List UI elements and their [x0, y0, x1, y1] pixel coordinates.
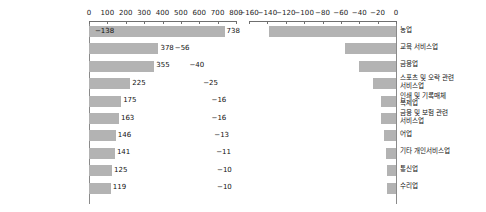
bar: [89, 130, 116, 141]
axis-tick-label: 100: [101, 9, 115, 17]
axis-tick-mark: [286, 21, 287, 24]
bar-value-label: −13: [214, 131, 229, 139]
axis-tick-label: 400: [156, 9, 170, 17]
category-label: 농업: [400, 27, 484, 35]
axis-tick-label: −40: [352, 9, 367, 17]
axis-tick-mark: [163, 21, 164, 24]
chart-panel-left: 0100200300400500600700800 738사회복지 서비스업37…: [0, 0, 243, 212]
category-label: 기타 개인서비스업: [400, 148, 484, 156]
bar: [387, 183, 396, 194]
axis-tick-mark: [341, 21, 342, 24]
axis-tick-mark: [249, 21, 250, 24]
bar-value-label: 225: [132, 79, 145, 87]
bar: [89, 61, 154, 72]
axis-tick-label: −60: [333, 9, 348, 17]
bar-value-label: 146: [118, 131, 131, 139]
category-label: 수리업: [400, 183, 484, 191]
bar: [381, 113, 396, 124]
bar-value-label: −16: [212, 96, 227, 104]
bar-value-label: −138: [95, 27, 114, 35]
axis-tick-label: −100: [294, 9, 314, 17]
axis-tick-mark: [218, 21, 219, 24]
bar-value-label: 175: [123, 96, 136, 104]
bar-value-label: −25: [203, 79, 218, 87]
category-label: 인쇄 및 기록매체 복제업: [400, 93, 484, 108]
bar-value-label: −10: [217, 183, 232, 191]
axis-tick-mark: [304, 21, 305, 24]
axis-tick-mark: [236, 21, 237, 24]
bar: [384, 130, 396, 141]
bar: [89, 78, 130, 89]
axis-tick-label: 600: [192, 9, 206, 17]
bar: [381, 96, 396, 107]
bar: [387, 165, 396, 176]
axis-tick-label: −120: [276, 9, 296, 17]
bar: [269, 26, 396, 37]
bar: [89, 113, 119, 124]
category-label: 어업: [400, 131, 484, 139]
category-label: 교육 서비스업: [400, 44, 484, 52]
bar-value-label: −16: [212, 114, 227, 122]
bar-value-label: 119: [113, 183, 126, 191]
axis-tick-mark: [378, 21, 379, 24]
category-label: 금융 및 보험 관련 서비스업: [400, 110, 484, 125]
bar: [89, 183, 111, 194]
bar: [386, 148, 396, 159]
axis-tick-mark: [323, 21, 324, 24]
bar-value-label: 355: [156, 61, 169, 69]
bar: [345, 43, 396, 54]
bar-value-label: −11: [216, 148, 231, 156]
bar: [89, 165, 112, 176]
bar-value-label: 378: [160, 44, 173, 52]
bar: [373, 78, 396, 89]
axis-tick-mark: [267, 21, 268, 24]
bar-value-label: 141: [117, 148, 130, 156]
category-label: 스포츠 및 오락 관련 서비스업: [400, 75, 484, 90]
bar: [89, 43, 158, 54]
bar-value-label: 738: [227, 27, 240, 35]
axis-tick-label: −80: [315, 9, 330, 17]
axis-tick-mark: [89, 21, 90, 24]
category-label: 통신업: [400, 166, 484, 174]
bar-value-label: −56: [175, 44, 190, 52]
chart-panel-right: −160−140−120−100−80−60−40−200 −138농업−56교…: [243, 0, 486, 212]
axis-tick-mark: [396, 21, 397, 24]
baseline: [396, 22, 397, 204]
bar-value-label: −10: [217, 166, 232, 174]
axis-tick-mark: [126, 21, 127, 24]
axis-tick-label: 200: [119, 9, 133, 17]
bar: [89, 96, 121, 107]
dual-bar-chart-figure: 0100200300400500600700800 738사회복지 서비스업37…: [0, 0, 486, 212]
axis-tick-label: −20: [370, 9, 385, 17]
axis-tick-mark: [359, 21, 360, 24]
bar-value-label: 163: [121, 114, 134, 122]
bar-value-label: 125: [114, 166, 127, 174]
axis-tick-label: 0: [87, 9, 92, 17]
axis-tick-mark: [199, 21, 200, 24]
axis-tick-label: 500: [174, 9, 188, 17]
axis-tick-mark: [107, 21, 108, 24]
axis-tick-label: 700: [211, 9, 225, 17]
axis-tick-mark: [181, 21, 182, 24]
axis-tick-mark: [144, 21, 145, 24]
axis-tick-label: −140: [258, 9, 278, 17]
bar: [89, 148, 115, 159]
category-label: 금융업: [400, 61, 484, 69]
bar-value-label: −40: [189, 61, 204, 69]
axis-tick-label: −160: [239, 9, 259, 17]
bar: [359, 61, 396, 72]
axis-tick-label: 300: [137, 9, 151, 17]
axis-tick-label: 0: [394, 9, 399, 17]
